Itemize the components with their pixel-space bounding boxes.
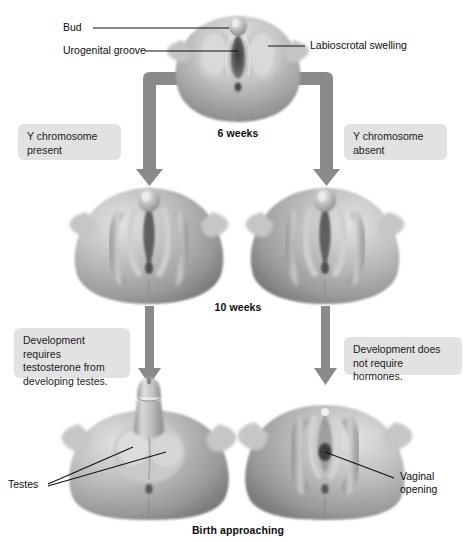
callout-development-requires-testosterone: Development requires testosterone from d…	[14, 328, 130, 378]
stage-label-6-weeks: 6 weeks	[188, 127, 288, 139]
callout-development-no-hormones: Development does not require hormones.	[344, 337, 462, 375]
specimen-female-10-weeks	[246, 188, 405, 304]
stage-label-birth-approaching: Birth approaching	[168, 524, 308, 536]
specimen-male-birth	[62, 377, 236, 520]
callout-y-chromosome-present: Y chromosome present	[18, 124, 121, 160]
branch-arrows-stage2	[138, 306, 337, 385]
specimen-indifferent-6-weeks	[167, 16, 309, 122]
label-urogenital-groove: Urogenital groove	[63, 44, 146, 57]
specimen-male-10-weeks	[70, 188, 229, 304]
callout-y-chromosome-absent: Y chromosome absent	[344, 124, 447, 160]
label-testes: Testes	[8, 478, 38, 491]
specimen-female-birth	[238, 405, 412, 520]
stage-label-10-weeks: 10 weeks	[188, 301, 288, 313]
genital-development-diagram: Bud Urogenital groove Labioscrotal swell…	[0, 0, 476, 542]
label-bud: Bud	[63, 21, 82, 34]
diagram-graphics-layer	[0, 0, 476, 542]
label-labioscrotal-swelling: Labioscrotal swelling	[310, 39, 407, 52]
label-vaginal-opening: Vaginal opening	[400, 470, 437, 496]
